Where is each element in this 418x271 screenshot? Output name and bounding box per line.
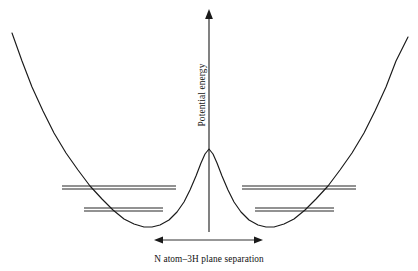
arrow-up-icon (205, 9, 213, 19)
arrow-right-icon (254, 236, 263, 243)
x-axis-label: N atom–3H plane separation (154, 254, 264, 264)
separation-measure-arrow (154, 236, 263, 243)
diagram-canvas: Potential energy N atom–3H plane separat… (0, 0, 418, 271)
potential-energy-diagram: Potential energy N atom–3H plane separat… (0, 0, 418, 271)
y-axis-label: Potential energy (197, 63, 207, 126)
arrow-left-icon (154, 236, 163, 243)
potential-energy-curve (12, 33, 408, 227)
